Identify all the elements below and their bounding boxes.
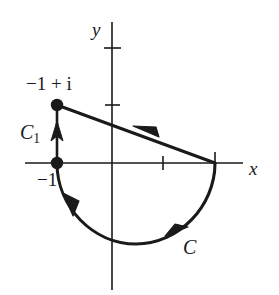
arc-c-arrow-left <box>63 193 79 216</box>
point-minus-one-plus-i-label: −1 + i <box>26 74 72 93</box>
tick-marks-group <box>104 48 215 174</box>
y-axis-label: y <box>92 20 100 39</box>
point-minus-one-plus-i-dot <box>51 99 63 111</box>
x-axis-label: x <box>249 159 257 178</box>
segment-c1-label-subscript: 1 <box>33 131 40 146</box>
segment-c1-label: C1 <box>20 122 40 145</box>
point-minus-one-dot <box>51 157 63 169</box>
arc-c-label: C <box>183 237 196 257</box>
contour-svg <box>0 0 279 295</box>
arc-c-path <box>57 163 215 244</box>
segment-c1-label-base: C <box>20 121 33 143</box>
point-minus-one-label: −1 <box>37 170 57 189</box>
arc-c-arrow-right <box>165 224 188 236</box>
contour-figure: −1 + i −1 C1 C x y <box>0 0 279 295</box>
diagonal-segment <box>57 105 215 163</box>
